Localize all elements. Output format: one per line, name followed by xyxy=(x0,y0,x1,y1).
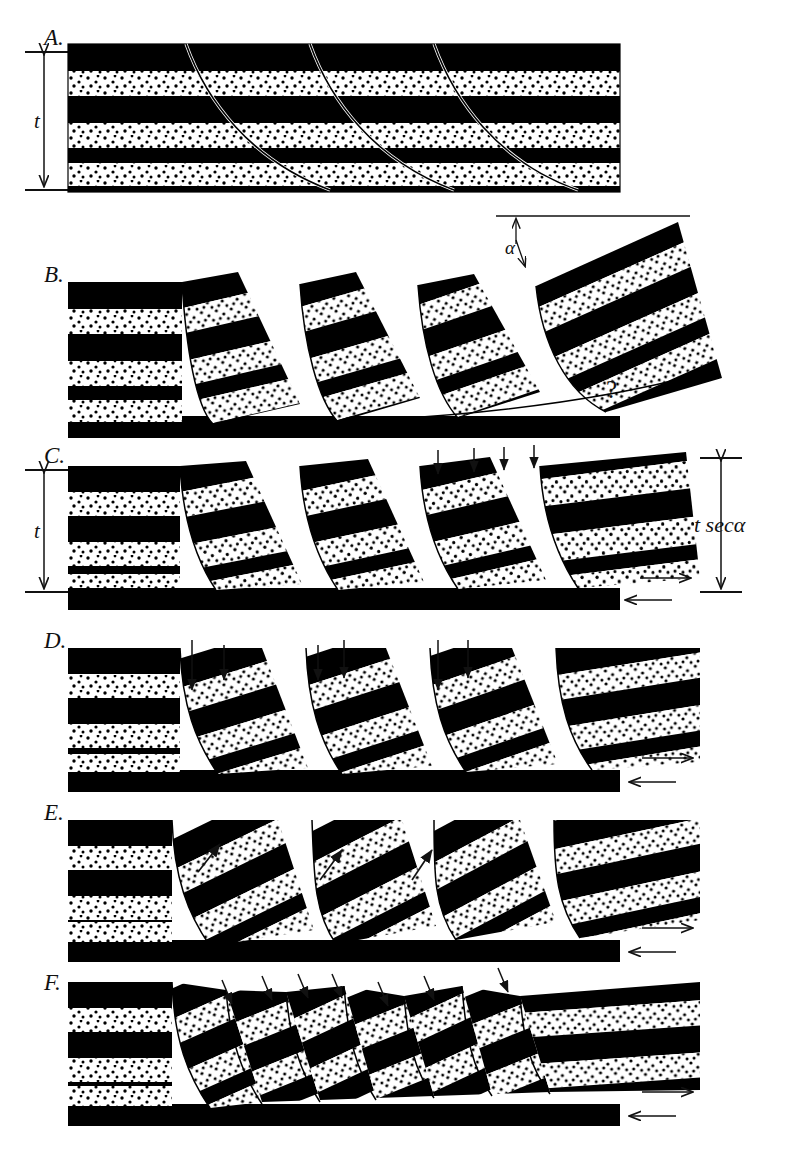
stipple-layer xyxy=(60,724,190,748)
dark-layer xyxy=(60,982,185,1008)
stipple-layer xyxy=(68,163,620,186)
panel-e-block-0 xyxy=(60,820,185,942)
detachment-footwall xyxy=(68,588,620,610)
panel-a-label: A. xyxy=(42,25,64,50)
dark-layer xyxy=(60,566,190,574)
dark-layer xyxy=(60,1032,185,1058)
dark-layer xyxy=(60,466,190,492)
stipple-layer xyxy=(60,922,185,942)
stipple-layer xyxy=(60,309,200,334)
stipple-layer xyxy=(60,846,185,870)
dark-layer xyxy=(60,920,185,922)
dark-layer xyxy=(60,748,190,754)
figure-root: A. t B. xyxy=(0,0,795,1168)
panel-f-label: F. xyxy=(43,970,61,995)
dark-layer xyxy=(60,870,185,896)
stipple-layer xyxy=(60,542,190,566)
dark-layer xyxy=(60,334,200,361)
panel-d-label: D. xyxy=(43,628,66,653)
panel-d-block-0 xyxy=(60,648,190,772)
panel-b-block-0 xyxy=(60,282,200,422)
detachment-footwall xyxy=(68,1104,620,1126)
stipple-layer xyxy=(60,896,185,920)
stipple-layer xyxy=(60,1058,185,1082)
stipple-layer xyxy=(60,1008,185,1032)
stipple-layer xyxy=(60,361,200,386)
dark-layer xyxy=(60,1082,185,1086)
stipple-layer xyxy=(60,754,190,772)
stipple-layer xyxy=(60,400,200,422)
stipple-layer xyxy=(60,674,190,698)
stipple-layer xyxy=(60,1086,185,1106)
panel-c-label: C. xyxy=(44,443,65,468)
panel-c-tsec-label: t secα xyxy=(694,512,746,537)
dark-layer xyxy=(68,44,620,71)
geologic-cross-section-figure: A. t B. xyxy=(0,0,795,1168)
dark-layer xyxy=(60,516,190,542)
dark-layer xyxy=(60,386,200,400)
dark-layer xyxy=(60,282,200,309)
panel-f-block-0 xyxy=(60,982,185,1106)
dark-layer xyxy=(68,148,620,163)
panel-a-strata xyxy=(68,44,620,206)
panel-e-label: E. xyxy=(43,800,64,825)
panel-b-question-label: ? xyxy=(606,376,617,403)
panel-b-label: B. xyxy=(44,262,64,287)
stipple-layer xyxy=(68,123,620,148)
panel-b-alpha-label: α xyxy=(505,237,516,258)
panel-a: A. t xyxy=(25,25,620,206)
dark-layer xyxy=(60,698,190,724)
dark-layer xyxy=(60,820,185,846)
dark-layer xyxy=(60,648,190,674)
stipple-layer xyxy=(60,492,190,516)
detachment-footwall xyxy=(68,940,620,962)
panel-c-block-0 xyxy=(60,466,190,592)
stipple-layer xyxy=(68,71,620,96)
